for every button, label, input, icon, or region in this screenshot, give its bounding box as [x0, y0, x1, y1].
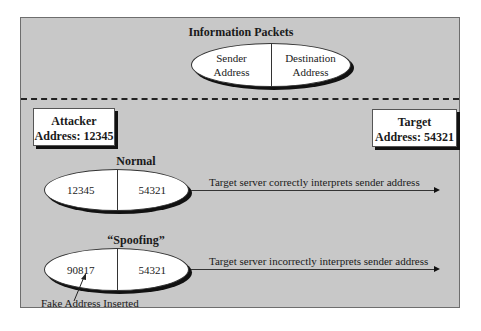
spoofing-packet-ellipse: 90817 54321 [44, 248, 189, 291]
normal-arrow [191, 190, 438, 191]
normal-packet-ellipse: 12345 54321 [44, 169, 189, 211]
fake-address-annotation: Fake Address Inserted [41, 297, 139, 309]
target-address: Address: 54321 [373, 130, 456, 145]
attacker-box: Attacker Address: 12345 [33, 108, 115, 146]
spoofing-arrow-label: Target server incorrectly interprets sen… [209, 255, 428, 267]
sender-label-line2: Address [213, 65, 249, 79]
destination-address-field: Destination Address [271, 44, 350, 86]
normal-sender-field: 12345 [45, 170, 117, 210]
sender-address-field: Sender Address [192, 44, 271, 86]
normal-title: Normal [101, 154, 171, 169]
packet-structure-ellipse: Sender Address Destination Address [191, 43, 351, 87]
diagram-panel: Information Packets Sender Address Desti… [20, 17, 460, 308]
spoofing-destination-field: 54321 [117, 249, 189, 290]
spoofing-arrow [191, 269, 438, 270]
attacker-label: Attacker [34, 114, 114, 129]
normal-destination-field: 54321 [117, 170, 189, 210]
spoofing-title: “Spoofing” [96, 233, 176, 248]
target-box: Target Address: 54321 [372, 109, 457, 147]
target-label: Target [373, 115, 456, 130]
normal-arrow-label: Target server correctly interprets sende… [209, 176, 420, 188]
section-divider-dashed [21, 98, 459, 100]
attacker-address: Address: 12345 [34, 129, 114, 144]
information-packets-title: Information Packets [21, 25, 461, 40]
destination-label-line2: Address [285, 65, 336, 79]
sender-label-line1: Sender [213, 51, 249, 65]
destination-label-line1: Destination [285, 51, 336, 65]
